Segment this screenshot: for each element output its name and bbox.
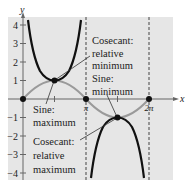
y-tick-1: 1: [13, 75, 18, 86]
x-axis-arrow-icon: [173, 97, 179, 101]
x-tick-2pi: 2π: [144, 103, 154, 113]
y-tick-4: 4: [13, 20, 18, 31]
x-axis-label: x: [179, 93, 185, 104]
y-tick-3: 3: [13, 38, 18, 49]
point-origin: [20, 96, 26, 102]
y-tick-neg3: −3: [7, 149, 18, 160]
svg-text:Sine:: Sine:: [92, 73, 114, 84]
y-tick-neg1: −1: [7, 112, 18, 123]
y-tick-2: 2: [13, 57, 18, 68]
svg-text:relative: relative: [92, 48, 124, 59]
y-axis-label: y: [19, 4, 25, 15]
svg-text:maximum: maximum: [33, 117, 76, 128]
svg-text:relative: relative: [33, 150, 65, 161]
svg-text:Cosecant:: Cosecant:: [92, 35, 133, 46]
svg-text:maximum: maximum: [33, 164, 76, 175]
svg-text:Cosecant:: Cosecant:: [33, 136, 74, 147]
x-tick-pi: π: [84, 103, 89, 113]
svg-text:minimum: minimum: [92, 86, 133, 97]
sine-cosecant-graph: 4 3 2 1 −1 −2 −3 −4 y x π 2π Cosecant: r…: [0, 0, 186, 184]
y-tick-neg2: −2: [7, 131, 18, 142]
svg-text:Sine:: Sine:: [33, 104, 55, 115]
point-3pi-over-2: [115, 115, 121, 121]
point-pi: [83, 96, 89, 102]
y-tick-neg4: −4: [7, 168, 18, 179]
point-2pi: [146, 96, 152, 102]
svg-text:minimum: minimum: [92, 60, 133, 71]
point-pi-over-2: [52, 78, 58, 84]
